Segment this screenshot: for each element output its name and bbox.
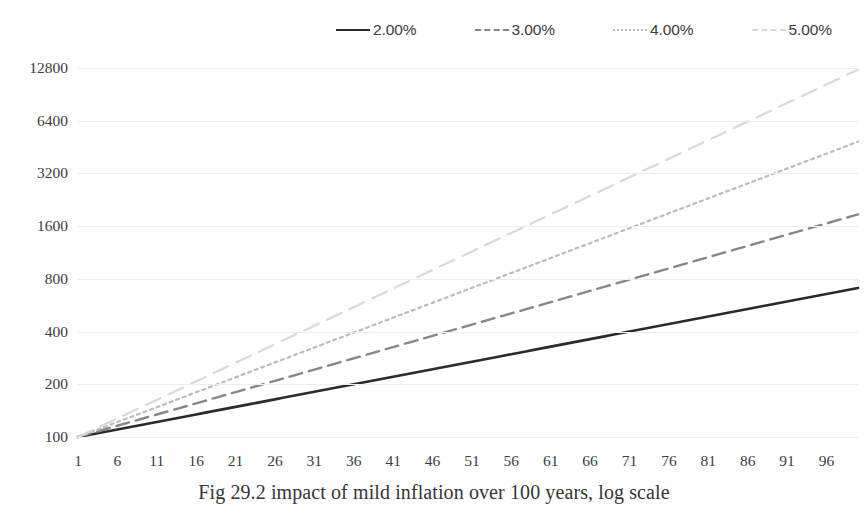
x-tick-label: 31 — [307, 452, 323, 470]
series-line-2-00% — [78, 288, 858, 437]
x-tick-label: 81 — [701, 452, 717, 470]
legend-swatch-2-icon — [336, 29, 370, 31]
x-tick-label: 71 — [622, 452, 638, 470]
legend-swatch-5-icon — [752, 29, 786, 31]
x-tick-label: 36 — [346, 452, 362, 470]
legend-swatch-3-icon — [475, 29, 509, 31]
x-tick-label: 91 — [779, 452, 795, 470]
gridline-y — [78, 226, 858, 227]
gridline-y — [78, 121, 858, 122]
x-tick-label: 21 — [228, 452, 244, 470]
data-series-layer — [78, 68, 858, 437]
x-tick-label: 61 — [543, 452, 559, 470]
figure-caption: Fig 29.2 impact of mild inflation over 1… — [0, 481, 868, 504]
legend-item-2[interactable]: 2.00% — [336, 21, 416, 39]
x-tick-label: 56 — [504, 452, 520, 470]
chart-plot-region: 10020040080016003200640012800 — [0, 50, 868, 450]
x-tick-label: 11 — [149, 452, 164, 470]
x-tick-label: 46 — [425, 452, 441, 470]
x-tick-label: 76 — [661, 452, 677, 470]
x-tick-label: 41 — [385, 452, 401, 470]
gridline-y — [78, 279, 858, 280]
x-tick-label: 1 — [74, 452, 82, 470]
x-tick-label: 66 — [582, 452, 598, 470]
gridline-y — [78, 332, 858, 333]
y-tick-label: 3200 — [37, 164, 68, 182]
legend-label-3: 3.00% — [512, 21, 555, 39]
gridline-y — [78, 437, 858, 438]
x-tick-label: 96 — [819, 452, 835, 470]
series-line-3-00% — [78, 214, 858, 437]
y-tick-label: 12800 — [29, 59, 68, 77]
gridline-y — [78, 173, 858, 174]
x-tick-label: 6 — [114, 452, 122, 470]
legend-label-4: 4.00% — [650, 21, 693, 39]
x-axis-tick-labels: 16111621263136414651566166717681869196 — [78, 452, 858, 474]
gridline-y — [78, 68, 858, 69]
x-tick-label: 16 — [188, 452, 204, 470]
y-tick-label: 200 — [45, 375, 68, 393]
legend-swatch-4-icon — [613, 29, 647, 31]
x-tick-label: 26 — [267, 452, 283, 470]
series-line-4-00% — [78, 142, 858, 437]
y-tick-label: 400 — [45, 323, 68, 341]
x-tick-label: 86 — [740, 452, 756, 470]
legend-item-4[interactable]: 4.00% — [613, 21, 693, 39]
x-tick-label: 51 — [464, 452, 480, 470]
legend-label-2: 2.00% — [373, 21, 416, 39]
plot-canvas — [78, 68, 858, 437]
legend-label-5: 5.00% — [789, 21, 832, 39]
y-tick-label: 6400 — [37, 112, 68, 130]
y-tick-label: 800 — [45, 270, 68, 288]
y-tick-label: 100 — [45, 428, 68, 446]
y-axis-tick-labels: 10020040080016003200640012800 — [0, 68, 68, 437]
series-line-5-00% — [78, 70, 858, 437]
legend-item-3[interactable]: 3.00% — [475, 21, 555, 39]
legend-item-5[interactable]: 5.00% — [752, 21, 832, 39]
gridline-y — [78, 384, 858, 385]
chart-legend: 2.00% 3.00% 4.00% 5.00% — [336, 17, 832, 43]
y-tick-label: 1600 — [37, 217, 68, 235]
